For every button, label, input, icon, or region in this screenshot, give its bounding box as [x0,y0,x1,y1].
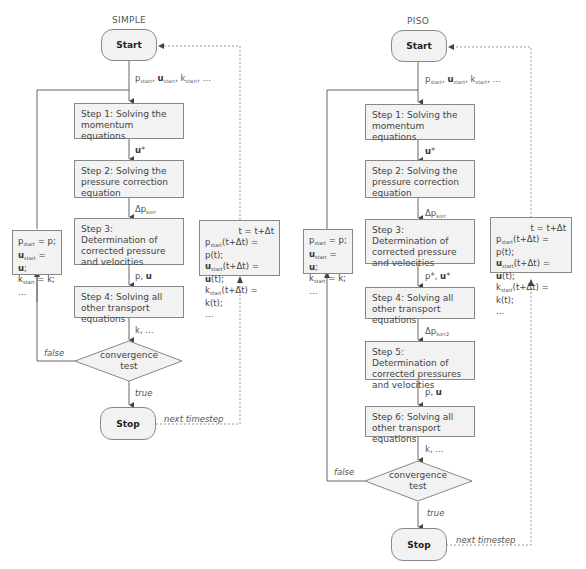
simple-arrow-label-p-u: p, u [135,271,152,281]
piso-step-4[interactable]: Step 4: Solving all other transport equa… [365,287,475,319]
piso-arrow-label-p-star-u-star: p*, u* [425,271,450,281]
stop-label: Stop [116,419,139,429]
piso-true-label: true [427,508,444,518]
piso-stop-node[interactable]: Stop [391,528,447,561]
simple-stop-node[interactable]: Stop [100,407,156,440]
piso-arrow-label-k: k, … [425,444,444,454]
simple-step-1[interactable]: Step 1: Solving the momentum equations [74,103,184,139]
simple-title: SIMPLE [109,15,149,25]
simple-step-2[interactable]: Step 2: Solving the pressure correction … [74,160,184,198]
start-label: Start [116,40,142,50]
piso-arrow-label-dp-korr: Δpkorr [425,208,446,219]
simple-reset-box: pstart = p; ustart = u; kstart = k; … [12,230,62,275]
simple-next-timestep-label: next timestep [164,414,223,424]
simple-start-node[interactable]: Start [101,29,157,61]
piso-init-label: pstart, ustart, kstart, … [425,74,501,85]
simple-true-label: true [135,388,152,398]
simple-step-4[interactable]: Step 4: Solving all other transport equa… [74,286,184,318]
piso-title: PISO [398,16,438,26]
piso-arrow-label-p-u: p, u [425,387,442,397]
stop-label: Stop [407,540,430,550]
simple-init-label: pstart, ustart, kstart, … [135,73,211,84]
start-label: Start [406,41,432,51]
piso-reset-box: pstart = p; ustart = u; kstart = k; … [303,229,353,274]
simple-arrow-label-u-star: u* [135,145,145,155]
piso-start-node[interactable]: Start [391,30,447,62]
piso-step-6[interactable]: Step 6: Solving all other transport equa… [365,406,475,437]
piso-false-label: false [334,467,354,477]
piso-step-3[interactable]: Step 3: Determination of corrected press… [365,219,475,264]
simple-convergence-test[interactable]: convergencetest [89,350,169,372]
simple-arrow-label-k: k, … [135,325,154,335]
piso-step-5[interactable]: Step 5: Determination of corrected press… [365,341,475,380]
piso-step-1[interactable]: Step 1: Solving the momentum equations [365,104,475,140]
simple-false-label: false [44,348,64,358]
simple-time-box: t = t+Δt pstart(t+Δt) = p(t); ustart(t+Δ… [199,220,280,276]
piso-step-2[interactable]: Step 2: Solving the pressure correction … [365,160,475,198]
piso-next-timestep-label: next timestep [456,535,515,545]
piso-time-box: t = t+Δt pstart(t+Δt) = p(t); ustart(t+Δ… [490,217,572,273]
piso-convergence-test[interactable]: convergencetest [378,470,458,492]
piso-arrow-label-dp-korr2: Δpkorr2 [425,326,449,337]
simple-step-3[interactable]: Step 3: Determination of corrected press… [74,218,184,265]
simple-arrow-label-dp-korr: Δpkorr [135,204,156,215]
piso-arrow-label-u-star: u* [425,146,435,156]
